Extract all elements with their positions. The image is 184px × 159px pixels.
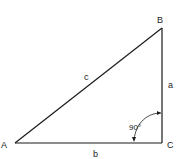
side-a-label: a	[168, 80, 173, 90]
vertex-b-label: B	[157, 15, 163, 25]
arc-arrow-right-icon	[157, 111, 161, 115]
triangle-diagram: B A C c a b 90°	[0, 0, 184, 159]
vertex-c-label: C	[167, 140, 174, 150]
side-c-label: c	[84, 72, 89, 82]
side-b-label: b	[93, 149, 98, 159]
arc-arrow-bottom-icon	[132, 137, 136, 142]
right-angle-label: 90°	[129, 123, 141, 132]
vertex-a-label: A	[1, 140, 7, 150]
